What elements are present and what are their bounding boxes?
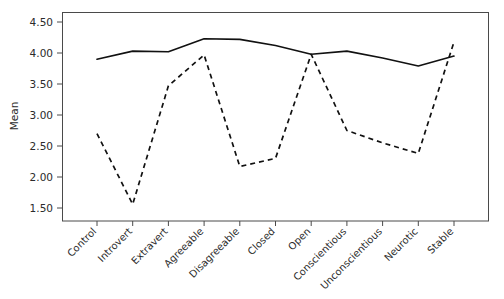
y-tick-label: 4.50 bbox=[30, 16, 53, 28]
y-tick-label: 4.00 bbox=[30, 47, 53, 59]
chart-canvas: 1.502.002.503.003.504.004.50 ControlIntr… bbox=[0, 0, 504, 299]
y-tick-label: 2.00 bbox=[30, 171, 53, 183]
line-chart: 1.502.002.503.003.504.004.50 ControlIntr… bbox=[0, 0, 504, 299]
y-tick-label: 2.50 bbox=[30, 140, 53, 152]
y-tick-label: 1.50 bbox=[30, 202, 53, 214]
y-axis-title: Mean bbox=[8, 102, 20, 131]
y-tick-label: 3.00 bbox=[30, 109, 53, 121]
y-tick-label: 3.50 bbox=[30, 78, 53, 90]
